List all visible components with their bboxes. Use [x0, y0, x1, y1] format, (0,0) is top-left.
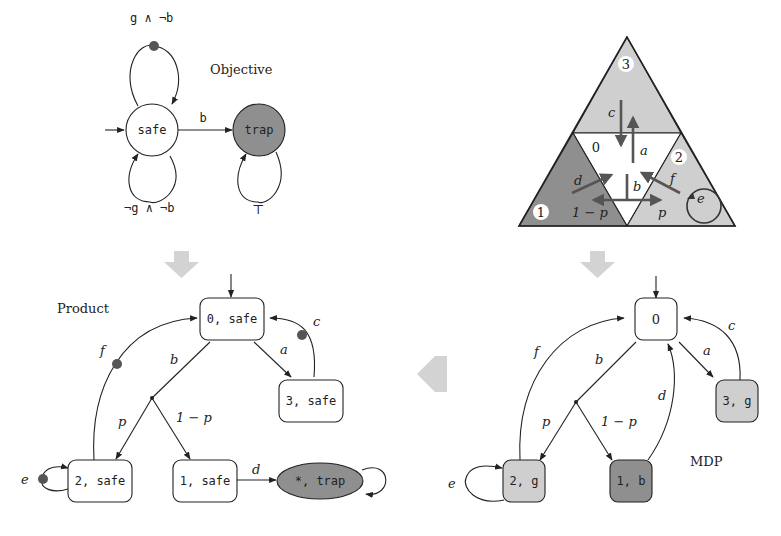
- mdp-edge-p: [540, 402, 576, 460]
- mdp-edge-a-label: a: [703, 343, 711, 358]
- mdp-edge-p-label: p: [542, 414, 551, 429]
- objective-title: Objective: [210, 62, 273, 77]
- flow-arrow-grid-down: [580, 251, 615, 278]
- edge-p-label: p: [118, 414, 127, 429]
- edge-c: [270, 318, 315, 377]
- trap-loop: [238, 152, 281, 203]
- mdp-edge-f: [520, 318, 624, 460]
- mdp-edge-1-minus-p-label: 1 − p: [601, 414, 637, 429]
- action-e-label: e: [697, 191, 705, 206]
- cell-3: [573, 37, 681, 133]
- mdp-graph: MDP f b a c d p 1 − p e 0 3, g 2, g 1, b: [448, 276, 758, 502]
- edge-b: [152, 342, 210, 398]
- edge-a-label: a: [280, 342, 288, 357]
- mdp-edge-e-label: e: [448, 476, 456, 491]
- edge-safe-trap-label: b: [199, 111, 206, 125]
- loop-top-label: g ∧ ¬b: [130, 11, 173, 25]
- action-c-label: c: [608, 105, 616, 120]
- safe-loop-top: [130, 45, 178, 106]
- state-trap-product-label: *, trap: [295, 474, 346, 488]
- state-3-safe-label: 3, safe: [286, 394, 337, 408]
- edge-e-label: e: [21, 472, 29, 487]
- mdp-state-3g-label: 3, g: [723, 394, 752, 408]
- mdp-title: MDP: [690, 454, 723, 469]
- mdp-edge-b-label: b: [595, 352, 603, 367]
- prob-1-minus-p-label: 1 − p: [572, 205, 608, 220]
- edge-c-marker-dot: [297, 330, 307, 340]
- edge-1-minus-p: [152, 398, 190, 459]
- edge-b-label: b: [170, 352, 178, 367]
- cell-3-number: 3: [622, 57, 630, 72]
- cell-1-number: 1: [537, 205, 545, 220]
- state-2-safe-label: 2, safe: [75, 474, 126, 488]
- state-1-safe-label: 1, safe: [180, 474, 231, 488]
- state-safe-label: safe: [138, 123, 167, 137]
- state-trap-label: trap: [245, 123, 274, 137]
- edge-e-marker-dot: [38, 474, 48, 484]
- cell-2-number: 2: [675, 150, 683, 165]
- edge-c-label: c: [313, 314, 321, 329]
- gridworld: 3 0 1 2 c a d b f e 1 − p p: [519, 37, 735, 226]
- action-d-label: d: [574, 173, 582, 188]
- loop-bottom-label: ¬g ∧ ¬b: [124, 201, 175, 215]
- cell-0-number: 0: [592, 140, 600, 155]
- action-b-label: b: [633, 179, 641, 194]
- objective-automaton: Objective g ∧ ¬b ¬g ∧ ¬b safe b trap ⊤: [105, 11, 285, 217]
- edge-1-minus-p-label: 1 − p: [176, 410, 212, 425]
- mdp-edge-d-label: d: [658, 388, 666, 403]
- mdp-state-2g-label: 2, g: [510, 474, 539, 488]
- accepting-marker-dot: [149, 41, 159, 51]
- mdp-edge-b: [576, 342, 636, 402]
- trap-loop-label: ⊤: [252, 202, 264, 217]
- mdp-edge-f-label: f: [533, 344, 541, 359]
- state-0-safe-label: 0, safe: [207, 312, 258, 326]
- edge-f-marker-dot: [112, 359, 122, 369]
- product-title: Product: [57, 301, 110, 316]
- flow-arrow-mdp-left: [417, 356, 447, 392]
- product-graph: Product f b a c p 1 − p e d 0, safe 3, s…: [21, 274, 386, 502]
- flow-arrow-objective-down: [164, 251, 199, 278]
- safe-loop-bottom: [129, 154, 176, 203]
- action-a-label: a: [640, 143, 648, 158]
- mdp-state-0-label: 0: [652, 312, 660, 327]
- mdp-edge-e-loop: [465, 466, 504, 501]
- edge-d-label: d: [252, 462, 260, 477]
- trap-self-loop: [362, 468, 386, 495]
- edge-f-label: f: [99, 343, 107, 358]
- prob-p-label: p: [658, 205, 667, 220]
- edge-f: [94, 318, 197, 460]
- mdp-edge-c-label: c: [728, 318, 736, 333]
- diagram-canvas: Objective g ∧ ¬b ¬g ∧ ¬b safe b trap ⊤: [0, 0, 781, 536]
- mdp-edge-1-minus-p: [576, 402, 612, 460]
- mdp-state-1b-label: 1, b: [617, 474, 646, 488]
